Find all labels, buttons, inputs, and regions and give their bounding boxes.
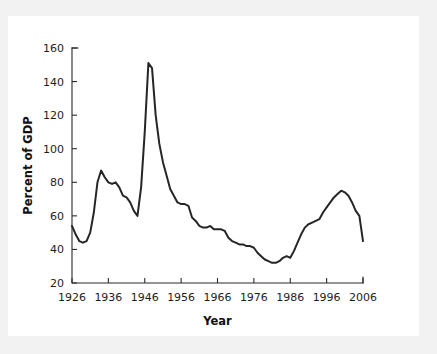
chart-svg: 20406080100120140160 1926193619461956196… xyxy=(8,16,419,336)
chart-axes xyxy=(72,48,363,283)
x-axis-ticks: 192619361946195619661976198619962006 xyxy=(58,278,377,304)
x-tick-label: 1966 xyxy=(204,291,232,304)
x-tick-label: 1956 xyxy=(167,291,195,304)
x-tick-label: 1996 xyxy=(313,291,341,304)
y-tick-label: 160 xyxy=(43,42,64,55)
y-tick-label: 80 xyxy=(50,176,64,189)
x-tick-label: 1976 xyxy=(240,291,268,304)
x-tick-label: 1936 xyxy=(94,291,122,304)
chart-page: 20406080100120140160 1926193619461956196… xyxy=(0,0,437,354)
line-chart-figure: 20406080100120140160 1926193619461956196… xyxy=(8,16,419,336)
y-tick-label: 120 xyxy=(43,109,64,122)
y-tick-label: 140 xyxy=(43,76,64,89)
x-tick-label: 1946 xyxy=(131,291,159,304)
data-series-group xyxy=(72,63,363,263)
y-tick-label: 20 xyxy=(50,277,64,290)
y-tick-label: 40 xyxy=(50,243,64,256)
x-tick-label: 1926 xyxy=(58,291,86,304)
x-tick-label: 2006 xyxy=(349,291,377,304)
x-tick-label: 1986 xyxy=(276,291,304,304)
y-tick-label: 60 xyxy=(50,210,64,223)
x-axis-title: Year xyxy=(202,314,232,328)
y-axis-title: Percent of GDP xyxy=(21,116,35,215)
y-tick-label: 100 xyxy=(43,143,64,156)
series-line-percent-of-gdp xyxy=(72,63,363,263)
figure-card: 20406080100120140160 1926193619461956196… xyxy=(8,16,419,336)
axis-spines xyxy=(72,48,363,283)
